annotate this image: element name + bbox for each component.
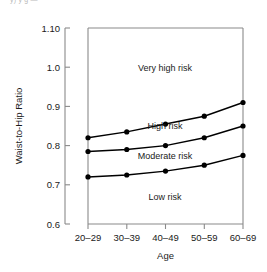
data-point-marker bbox=[202, 135, 207, 140]
data-point-marker bbox=[240, 100, 245, 105]
data-point-marker bbox=[85, 174, 90, 179]
region-label-very-high-risk: Very high risk bbox=[138, 63, 193, 73]
x-tick-label: 20–29 bbox=[75, 232, 101, 243]
y-axis-title: Waist-to-Hip Ratio bbox=[13, 88, 24, 165]
region-label-moderate-risk: Moderate risk bbox=[138, 151, 193, 161]
y-tick-label: 0.9 bbox=[47, 101, 60, 112]
x-axis-title: Age bbox=[157, 250, 174, 261]
data-point-marker bbox=[163, 143, 168, 148]
data-point-marker bbox=[163, 168, 168, 173]
data-point-marker bbox=[240, 153, 245, 158]
x-tick-label: 60–69 bbox=[230, 232, 256, 243]
x-tick-label: 40–49 bbox=[152, 232, 178, 243]
x-tick-label: 30–39 bbox=[114, 232, 140, 243]
data-point-marker bbox=[124, 172, 129, 177]
y-tick-label: 0.8 bbox=[47, 140, 60, 151]
data-point-marker bbox=[202, 163, 207, 168]
data-point-marker bbox=[85, 149, 90, 154]
chart-figure: y) y g — 1.10 1.0 0.9 0.8 0.7 0.6 Waist-… bbox=[0, 0, 267, 272]
y-tick-label: 0.7 bbox=[47, 179, 60, 190]
data-point-marker bbox=[85, 135, 90, 140]
region-label-high-risk: High risk bbox=[147, 121, 183, 131]
x-axis-ticks bbox=[88, 224, 243, 229]
data-point-marker bbox=[124, 147, 129, 152]
data-series-layer bbox=[85, 100, 245, 180]
data-point-marker bbox=[240, 123, 245, 128]
y-tick-label: 1.0 bbox=[47, 62, 60, 73]
x-tick-label: 50–59 bbox=[191, 232, 217, 243]
risk-zones-line-chart: 1.10 1.0 0.9 0.8 0.7 0.6 Waist-to-Hip Ra… bbox=[0, 0, 267, 272]
y-tick-label: 0.6 bbox=[47, 219, 60, 230]
region-label-low-risk: Low risk bbox=[148, 192, 182, 202]
y-axis bbox=[65, 28, 70, 224]
y-tick-label: 1.10 bbox=[42, 23, 61, 34]
data-point-marker bbox=[124, 129, 129, 134]
data-point-marker bbox=[202, 114, 207, 119]
